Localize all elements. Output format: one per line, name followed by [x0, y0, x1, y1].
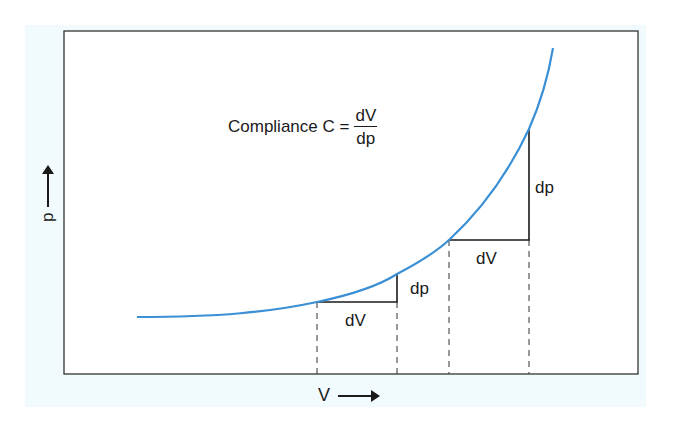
- small-triangle-dp-label: dp: [410, 280, 429, 297]
- arrow-up-icon: [47, 171, 49, 207]
- y-axis-text: p: [38, 213, 58, 222]
- x-axis-text: V: [318, 385, 330, 406]
- pressure-volume-diagram: [0, 0, 677, 425]
- formula-prefix: Compliance C =: [228, 117, 349, 137]
- formula-numerator: dV: [354, 107, 377, 127]
- large-triangle-dp-label: dp: [535, 179, 554, 196]
- small-triangle-dv-label: dV: [345, 312, 366, 329]
- compliance-formula: Compliance C = dV dp: [228, 104, 377, 150]
- y-axis-label: p: [36, 162, 60, 222]
- formula-fraction: dV dp: [354, 107, 377, 147]
- x-axis-label: V: [318, 385, 374, 406]
- arrow-right-icon: [338, 395, 374, 397]
- large-triangle-dv-label: dV: [476, 250, 497, 267]
- formula-denominator: dp: [356, 127, 375, 147]
